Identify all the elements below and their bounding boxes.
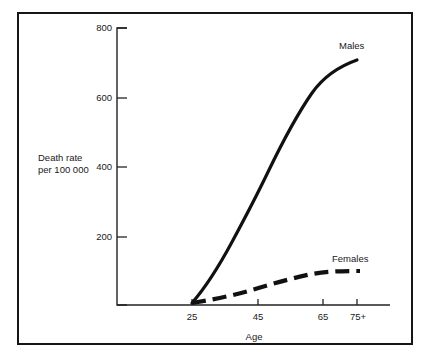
chart-figure: 800 600 400 200 25 45 65 75+ Age Death r… [0,0,433,360]
y-tick-label-800: 800 [96,22,112,33]
y-tick-label-400: 400 [96,161,112,172]
y-axis-title-line1: Death rate [38,152,82,163]
series-label-females: Females [332,253,369,264]
x-tick-label-75plus: 75+ [350,311,367,322]
x-axis-title: Age [246,331,263,342]
x-tick-label-65: 65 [318,311,329,322]
series-line-males [192,60,357,303]
x-tick-label-25: 25 [187,311,198,322]
chart-plot-area: 800 600 400 200 25 45 65 75+ Age Death r… [0,0,433,360]
x-tick-label-45: 45 [253,311,264,322]
y-tick-label-200: 200 [96,231,112,242]
y-axis-title-line2: per 100 000 [38,164,89,175]
series-line-females [192,271,360,303]
y-tick-label-600: 600 [96,92,112,103]
series-label-males: Males [339,40,365,51]
